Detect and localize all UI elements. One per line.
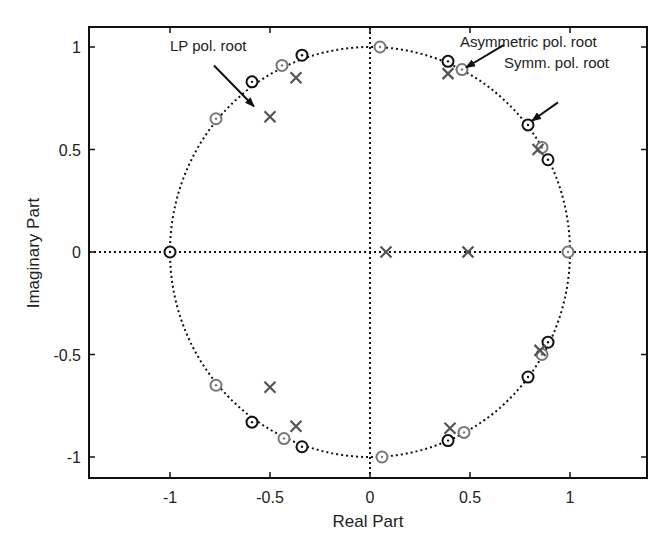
annotation-arrow: [532, 102, 558, 120]
zero-marker-dot: [283, 437, 285, 439]
zero-marker-dot: [169, 251, 171, 253]
zero-marker-dot: [447, 60, 449, 62]
pole-marker: [445, 423, 456, 434]
y-tick-label: 1: [72, 39, 81, 56]
zero-marker-dot: [251, 421, 253, 423]
y-tick-label: -0.5: [53, 347, 81, 364]
zero-marker-dot: [301, 54, 303, 56]
y-tick-label: 0: [72, 244, 81, 261]
zero-marker-dot: [527, 376, 529, 378]
zero-marker-dot: [527, 124, 529, 126]
x-tick-label: 1: [566, 489, 575, 506]
zero-marker-dot: [215, 384, 217, 386]
zero-marker-dot: [547, 341, 549, 343]
axes: -1-0.500.5110.50-0.5-1: [53, 27, 647, 506]
x-tick-label: -0.5: [256, 489, 284, 506]
annotation-label: LP pol. root: [170, 37, 247, 54]
pole-marker: [265, 111, 276, 122]
pole-zero-plot: LP pol. rootAsymmetric pol. rootSymm. po…: [0, 0, 665, 549]
zero-marker-dot: [567, 251, 569, 253]
y-tick-label: 0.5: [59, 142, 81, 159]
zero-marker-dot: [463, 431, 465, 433]
zero-marker-dot: [461, 68, 463, 70]
zero-marker-dot: [281, 64, 283, 66]
zero-marker-dot: [447, 439, 449, 441]
pole-marker: [265, 382, 276, 393]
x-tick-label: 0.5: [459, 489, 481, 506]
x-tick-label: -1: [163, 489, 177, 506]
plot-area: LP pol. rootAsymmetric pol. rootSymm. po…: [89, 27, 647, 478]
y-tick-label: -1: [67, 449, 81, 466]
zero-marker-dot: [379, 46, 381, 48]
pole-marker: [291, 421, 302, 432]
zero-marker-dot: [547, 159, 549, 161]
annotation-label: Asymmetric pol. root: [460, 33, 598, 50]
zero-marker-dot: [215, 118, 217, 120]
annotation-label: Symm. pol. root: [504, 54, 610, 71]
pole-marker: [291, 72, 302, 83]
x-tick-label: 0: [366, 489, 375, 506]
x-axis-label: Real Part: [333, 512, 404, 531]
y-axis-label: Imaginary Part: [24, 197, 43, 308]
zero-marker-dot: [251, 81, 253, 83]
pole-marker: [443, 68, 454, 79]
zero-marker-dot: [381, 456, 383, 458]
zero-marker-dot: [301, 446, 303, 448]
